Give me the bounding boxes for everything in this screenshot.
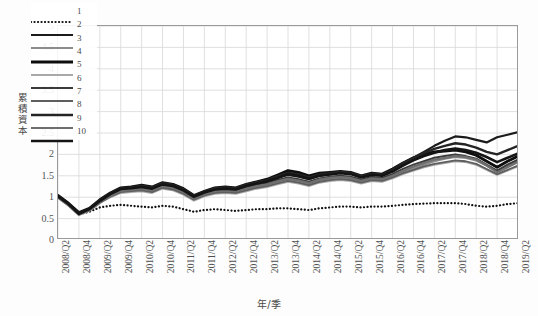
x-tick-label: 2014/Q4 — [333, 240, 343, 273]
legend-item-label: 9 — [77, 114, 82, 123]
x-tick-label: 2009/Q4 — [124, 240, 134, 273]
x-tick-label: 2017/Q4 — [458, 240, 468, 273]
x-tick-label: 2018/Q2 — [479, 240, 489, 273]
plot-area — [57, 25, 518, 239]
x-tick-label: 2008/Q4 — [82, 240, 92, 273]
x-tick-label: 2017/Q2 — [437, 240, 447, 273]
x-tick-label: 2008/Q2 — [61, 240, 71, 273]
legend-item-label: 2 — [77, 20, 82, 29]
x-tick-label: 2010/Q2 — [145, 240, 155, 273]
y-tick-label: 1 — [8, 191, 54, 202]
legend-item-label: 5 — [77, 60, 82, 69]
x-tick-label: 2012/Q4 — [249, 240, 259, 273]
legend: 12345678910 — [31, 3, 97, 140]
legend-item[interactable]: 1 — [31, 5, 97, 18]
legend-item-label: 8 — [77, 100, 82, 109]
series-lines — [58, 26, 518, 239]
legend-item-label: 3 — [77, 34, 82, 43]
x-tick-label: 2016/Q2 — [396, 240, 406, 273]
y-tick-label: 1.5 — [8, 169, 54, 180]
chart-figure: 累 積 資 本 00.511.522.533.544.55 1234567891… — [0, 0, 538, 316]
series-line — [58, 197, 518, 214]
legend-item-label: 10 — [77, 127, 86, 136]
legend-item-label: 7 — [77, 87, 82, 96]
x-tick-label: 2015/Q4 — [375, 240, 385, 273]
legend-item-label: 1 — [77, 7, 82, 16]
x-tick-label: 2009/Q2 — [103, 240, 113, 273]
x-tick-label: 2013/Q2 — [270, 240, 280, 273]
x-tick-label: 2013/Q4 — [291, 240, 301, 273]
x-tick-label: 2011/Q2 — [186, 240, 196, 273]
x-tick-label: 2015/Q2 — [354, 240, 364, 273]
x-tick-label: 2018/Q4 — [500, 240, 510, 273]
y-tick-label: 2 — [8, 148, 54, 159]
legend-item-label: 6 — [77, 74, 82, 83]
x-tick-label: 2019/Q2 — [521, 240, 531, 273]
x-tick-label: 2011/Q4 — [207, 240, 217, 273]
x-tick-label: 2012/Q2 — [228, 240, 238, 273]
legend-item-label: 4 — [77, 47, 82, 56]
x-tick-label: 2016/Q4 — [416, 240, 426, 273]
y-tick-label: 0.5 — [8, 212, 54, 223]
x-tick-label: 2010/Q4 — [166, 240, 176, 273]
x-axis-title: 年/季 — [0, 296, 538, 311]
x-tick-label: 2014/Q2 — [312, 240, 322, 273]
